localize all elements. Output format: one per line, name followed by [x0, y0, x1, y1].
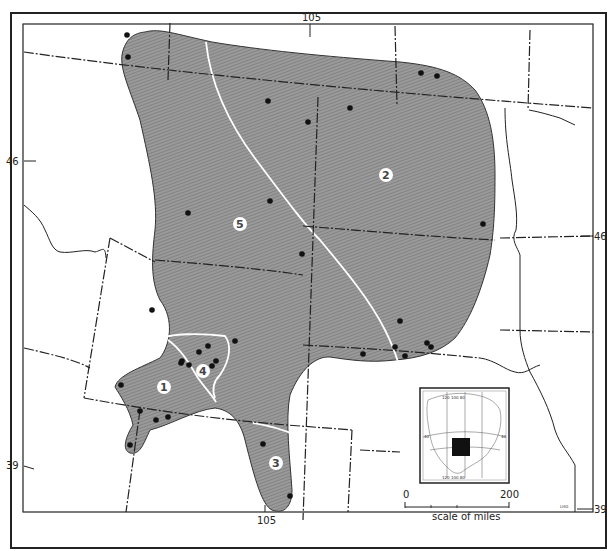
- svg-text:40: 40: [424, 434, 430, 439]
- locality-dot: [397, 318, 403, 324]
- locality-dot: [232, 338, 238, 344]
- locality-dot: [185, 210, 191, 216]
- region-label-4: 4: [196, 364, 210, 378]
- svg-text:4: 4: [199, 365, 207, 378]
- region-label-1: 1: [157, 380, 171, 394]
- locality-dot: [209, 363, 215, 369]
- locality-dot: [265, 98, 271, 104]
- locality-dot: [196, 349, 202, 355]
- svg-text:120 100 80: 120 100 80: [442, 475, 465, 480]
- locality-dot: [424, 340, 430, 346]
- locality-dot: [124, 32, 130, 38]
- locality-dot: [186, 362, 192, 368]
- locality-dot: [480, 221, 486, 227]
- credit-initials: LHG: [560, 504, 568, 509]
- locality-dot: [402, 353, 408, 359]
- locality-dot: [153, 417, 159, 423]
- locality-dot: [179, 358, 185, 364]
- locality-dot: [149, 307, 155, 313]
- region-label-3: 3: [269, 456, 283, 470]
- locality-dot: [260, 441, 266, 447]
- locality-dot: [287, 493, 293, 499]
- region-label-2: 2: [379, 168, 393, 182]
- svg-text:40: 40: [501, 434, 507, 439]
- svg-text:120 100 80: 120 100 80: [442, 395, 465, 400]
- latitude-label-right-lower: 39: [594, 504, 607, 515]
- locality-dot: [360, 351, 366, 357]
- locality-dot: [213, 358, 219, 364]
- svg-text:2: 2: [382, 169, 390, 182]
- map-canvas: 105 105 46 39 46 39 1 2 3 4 5: [0, 0, 614, 551]
- longitude-label-top: 105: [302, 12, 321, 23]
- locality-dot: [347, 105, 353, 111]
- region-label-5: 5: [233, 217, 247, 231]
- scale-caption: scale of miles: [432, 511, 500, 522]
- locality-dot: [434, 73, 440, 79]
- locality-dot: [118, 382, 124, 388]
- svg-text:3: 3: [272, 457, 280, 470]
- locality-dot: [125, 54, 131, 60]
- scale-end-label: 200: [500, 489, 519, 500]
- study-area-marker: [452, 438, 470, 456]
- scale-start-label: 0: [403, 489, 409, 500]
- svg-text:5: 5: [236, 218, 244, 231]
- locality-dot: [165, 414, 171, 420]
- locality-dot: [392, 344, 398, 350]
- locality-dot: [305, 119, 311, 125]
- latitude-label-right-upper: 46: [594, 231, 607, 242]
- locality-dot: [418, 70, 424, 76]
- locality-dot: [428, 344, 434, 350]
- locality-dot: [127, 442, 133, 448]
- locality-dot: [205, 343, 211, 349]
- inset-locator-map: 120 100 80 120 100 80 40 40: [420, 388, 509, 483]
- locality-dot: [299, 251, 305, 257]
- svg-text:1: 1: [160, 381, 168, 394]
- range-map-figure: 105 105 46 39 46 39 1 2 3 4 5: [0, 0, 614, 551]
- latitude-label-left-upper: 46: [6, 156, 19, 167]
- locality-dot: [267, 198, 273, 204]
- scale-bar: 0 200 scale of miles: [403, 489, 519, 522]
- latitude-label-left-lower: 39: [6, 460, 19, 471]
- locality-dot: [137, 408, 143, 414]
- longitude-label-bottom: 105: [257, 515, 276, 526]
